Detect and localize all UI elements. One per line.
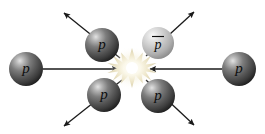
particle-outgoing-antiproton-upper-right: p xyxy=(142,27,174,59)
proton-sphere xyxy=(222,52,256,86)
diagram-canvas: p p p p p p xyxy=(0,0,265,134)
particle-outgoing-proton-upper-left: p xyxy=(85,28,119,62)
particle-outgoing-proton-lower-right: p xyxy=(141,79,175,113)
particle-incoming-proton-left: p xyxy=(9,52,43,86)
proton-sphere xyxy=(141,79,175,113)
proton-sphere xyxy=(85,28,119,62)
antiproton-sphere xyxy=(142,27,174,59)
burst-core xyxy=(126,62,138,74)
proton-sphere xyxy=(87,78,121,112)
proton-sphere xyxy=(9,52,43,86)
particle-outgoing-proton-lower-left: p xyxy=(87,78,121,112)
particle-incoming-proton-right: p xyxy=(222,52,256,86)
particle-collision-diagram: p p p p p p xyxy=(0,0,265,134)
